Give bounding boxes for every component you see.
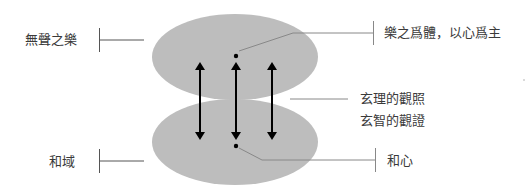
label-contemplation-line1: 玄理的觀照	[360, 91, 425, 107]
label-harmony-domain: 和域	[49, 154, 75, 170]
lower-center-dot	[234, 144, 238, 148]
label-silent-music: 無聲之樂	[25, 32, 77, 48]
upper-center-dot	[234, 54, 238, 58]
label-contemplation-line2: 玄智的觀證	[360, 113, 425, 129]
speck	[523, 79, 524, 80]
label-music-essence: 樂之爲體，以心爲主	[384, 25, 501, 41]
label-harmonious-heart: 和心	[387, 153, 413, 169]
